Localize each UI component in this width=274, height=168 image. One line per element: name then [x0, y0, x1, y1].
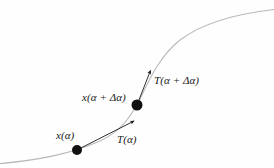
figure-canvas [0, 0, 274, 168]
tangent-vector-alpha-delta [137, 71, 151, 106]
parametrized-curve [0, 9, 274, 164]
label-point-alpha: x(α) [56, 130, 74, 141]
label-tangent-alpha: T(α) [117, 134, 137, 145]
label-point-alpha-delta: x(α + Δα) [82, 92, 126, 103]
label-tangent-alpha-delta: T(α + Δα) [154, 75, 199, 86]
tangent-vector-figure: x(α) T(α) x(α + Δα) T(α + Δα) [0, 0, 274, 168]
curve-point-alpha-delta [132, 100, 143, 111]
curve-point-alpha [72, 145, 82, 155]
